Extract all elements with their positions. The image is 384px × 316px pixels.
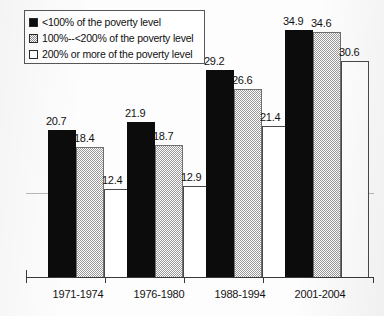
value-label-g0-s0: 20.7 [46, 116, 66, 127]
value-label-g3-s2: 30.6 [339, 47, 359, 58]
axis-tick-4 [373, 277, 374, 283]
bar-g2-s0 [206, 70, 234, 278]
value-label-g3-s1: 34.6 [311, 18, 331, 29]
value-label-g2-s1: 26.6 [232, 75, 252, 86]
legend-label-1: 100%--<200% of the poverty level [42, 32, 194, 44]
bar-g1-s1 [155, 145, 183, 278]
value-label-g1-s1: 18.7 [153, 131, 173, 142]
legend-item-1: 100%--<200% of the poverty level [29, 30, 200, 46]
legend-label-0: <100% of the poverty level [42, 16, 161, 28]
legend-item-2: 200% or more of the poverty level [29, 46, 200, 62]
value-label-g2-s0: 29.2 [204, 56, 224, 67]
axis-tick-1 [105, 277, 106, 283]
value-label-g1-s2: 12.9 [181, 172, 201, 183]
bar-g2-s1 [234, 89, 262, 278]
axis-tick-2 [184, 277, 185, 283]
axis-tick-0 [26, 277, 27, 283]
bar-g3-s0 [285, 30, 313, 278]
category-label-3: 2001-2004 [270, 288, 370, 300]
value-label-g0-s2: 12.4 [102, 175, 122, 186]
legend-swatch-stipple-icon [29, 34, 38, 43]
value-label-g0-s1: 18.4 [74, 133, 94, 144]
legend-item-0: <100% of the poverty level [29, 14, 200, 30]
value-label-g2-s2: 21.4 [260, 112, 280, 123]
bar-g3-s1 [313, 32, 341, 278]
chart-legend: <100% of the poverty level 100%--<200% o… [24, 10, 205, 64]
axis-baseline [26, 277, 374, 278]
bar-g0-s0 [48, 130, 76, 278]
bar-g3-s2 [341, 61, 369, 278]
legend-swatch-solid-icon [29, 18, 38, 27]
value-label-g1-s0: 21.9 [125, 108, 145, 119]
legend-swatch-open-icon [29, 50, 38, 59]
bar-g0-s1 [76, 147, 104, 278]
value-label-g3-s0: 34.9 [283, 16, 303, 27]
chart-page: 20.7 18.4 12.4 21.9 18.7 12.9 29.2 26.6 … [0, 0, 384, 316]
bar-g1-s0 [127, 122, 155, 278]
axis-tick-3 [263, 277, 264, 283]
legend-label-2: 200% or more of the poverty level [42, 48, 192, 60]
